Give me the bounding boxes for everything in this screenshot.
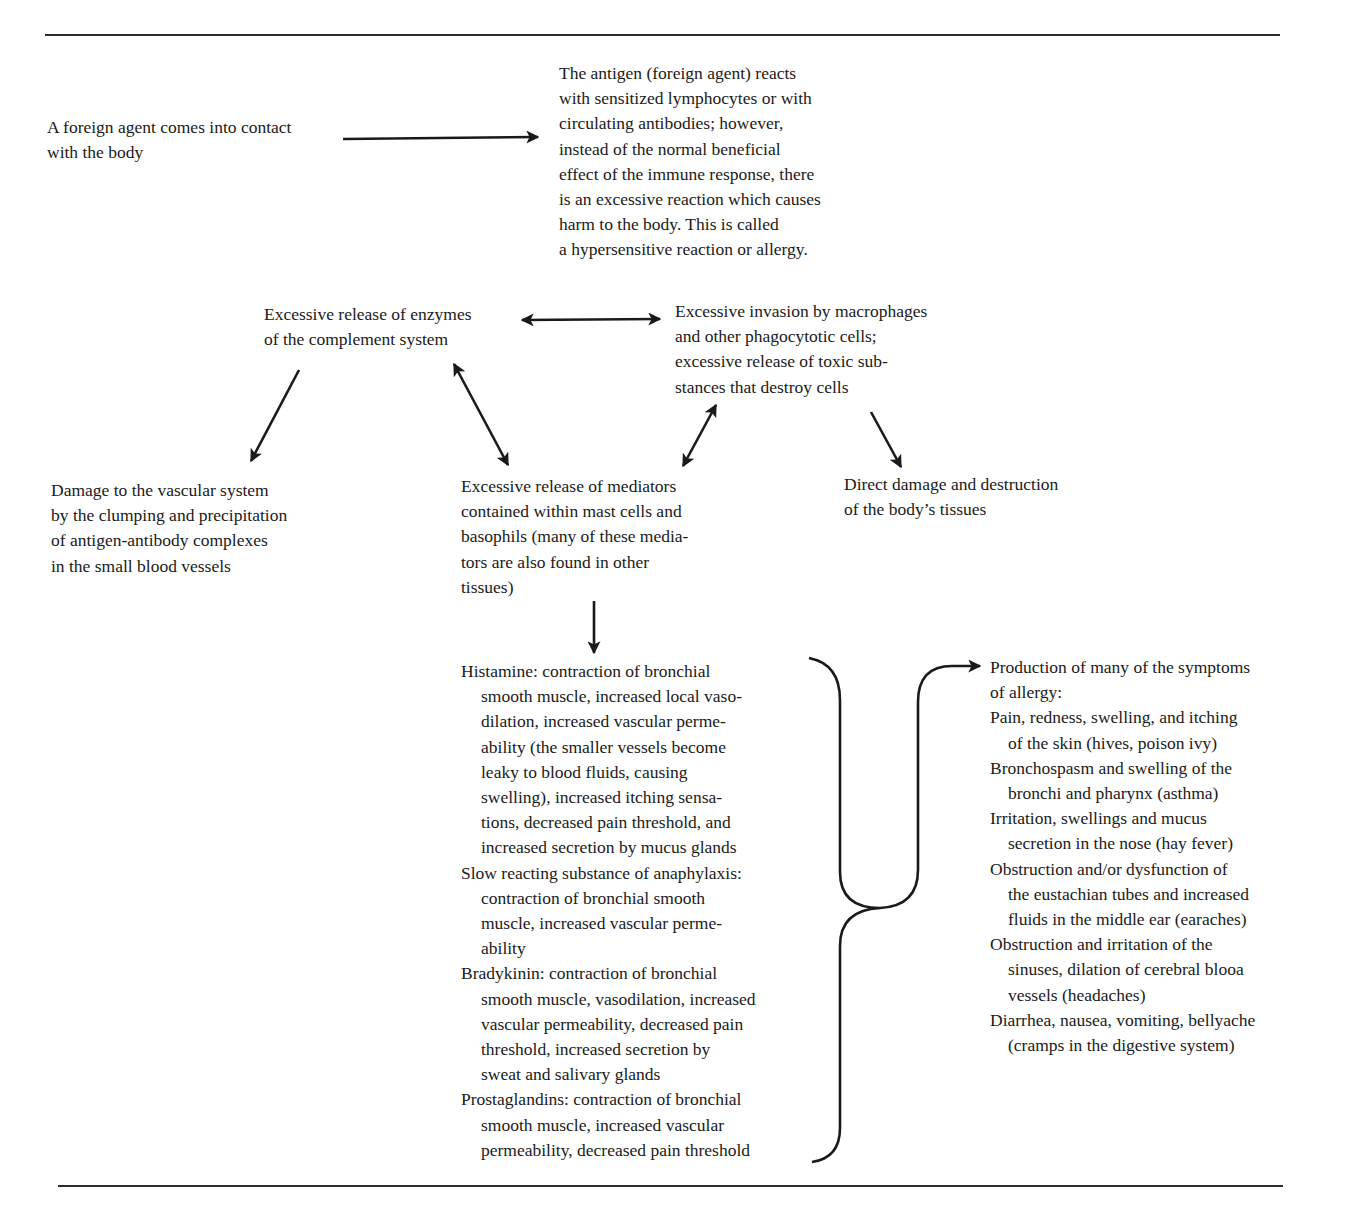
arrow-complement-to-vascular-icon: [251, 370, 299, 461]
double-arrow-complement-macrophage-icon: [522, 319, 660, 320]
double-arrow-macrophage-mediators-icon: [683, 405, 716, 466]
arrow-brace-to-symptoms-icon: [880, 666, 980, 908]
arrow-macrophage-to-tissue-icon: [871, 412, 901, 467]
arrow-contact-to-antigen-icon: [343, 137, 538, 139]
double-arrow-complement-mediators-icon: [454, 364, 508, 465]
curly-brace-icon: [809, 658, 880, 1162]
connector-layer: [0, 0, 1349, 1214]
